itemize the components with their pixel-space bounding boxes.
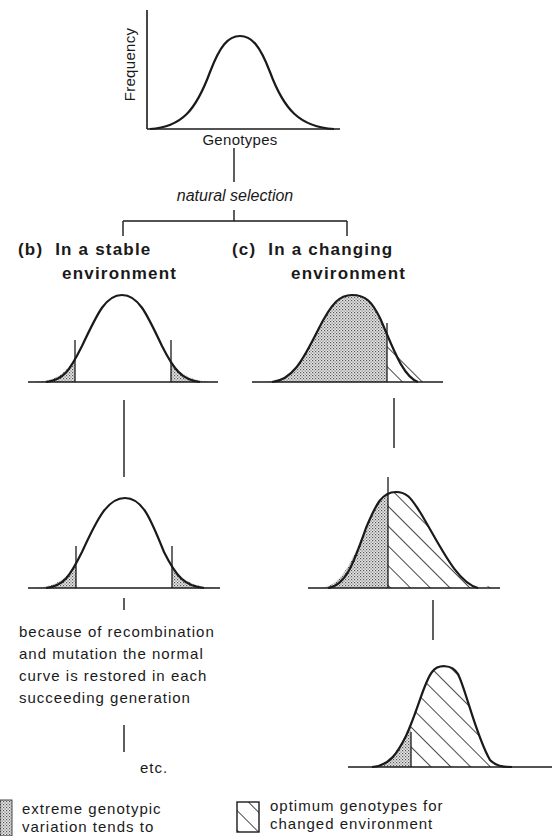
changing-marker: (c)	[232, 240, 256, 259]
normal-curve	[150, 36, 334, 129]
legend-hatch-line1: optimum genotypes for	[270, 797, 444, 815]
explanation-line-3: curve is restored in each	[19, 665, 215, 687]
legend-stipple-text: extreme genotypic variation tends to	[22, 800, 162, 836]
stable-heading: (b) In a stable	[18, 238, 152, 262]
changing-heading: (c) In a changing	[232, 238, 393, 262]
legend-stipple-line2: variation tends to	[22, 818, 162, 836]
legend-stipple-swatch	[0, 800, 12, 836]
stable-title-line2: environment	[62, 262, 177, 286]
changing-curve-2	[308, 477, 506, 589]
changing-title-line1: In a changing	[268, 240, 393, 259]
y-axis-label: Frequency	[121, 28, 138, 102]
top-distribution-graph	[147, 10, 340, 129]
legend-hatch-line2: changed environment	[270, 815, 444, 833]
changing-curve-3	[348, 660, 552, 768]
explanation-line-4: succeeding generation	[19, 687, 215, 709]
stable-title-line1: In a stable	[55, 240, 151, 259]
legend-hatch-swatch	[237, 802, 259, 832]
stable-curve-1	[20, 290, 226, 383]
stable-curve-2	[20, 495, 228, 589]
explanation-line-1: because of recombination	[19, 621, 215, 643]
legend-stipple-line1: extreme genotypic	[22, 800, 162, 818]
etc-label: etc.	[140, 757, 168, 779]
natural-selection-label: natural selection	[160, 187, 310, 205]
selection-diagram	[0, 0, 552, 836]
explanation-text: because of recombination and mutation th…	[19, 621, 215, 709]
changing-curve-1	[252, 290, 447, 383]
x-axis-label: Genotypes	[190, 131, 290, 148]
changing-title-line2: environment	[291, 262, 406, 286]
stable-marker: (b)	[18, 240, 43, 259]
explanation-line-2: and mutation the normal	[19, 643, 215, 665]
legend-hatch-text: optimum genotypes for changed environmen…	[270, 797, 444, 833]
